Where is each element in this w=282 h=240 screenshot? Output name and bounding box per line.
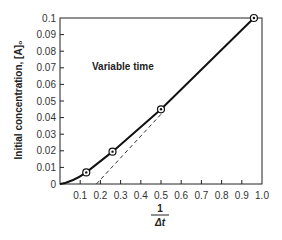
svg-text:0.5: 0.5 — [154, 190, 168, 201]
svg-text:0.8: 0.8 — [215, 190, 229, 201]
x-axis-label-denominator: Δt — [154, 217, 166, 228]
annotation-variable-time: Variable time — [92, 61, 154, 72]
svg-text:0.02: 0.02 — [37, 145, 57, 156]
svg-text:0.05: 0.05 — [37, 96, 57, 107]
svg-text:0.06: 0.06 — [37, 79, 57, 90]
svg-text:0.6: 0.6 — [174, 190, 188, 201]
svg-text:0.3: 0.3 — [114, 190, 128, 201]
svg-text:0.07: 0.07 — [37, 62, 57, 73]
y-axis-label: Initial concentration, [A]₀ — [13, 41, 24, 160]
svg-text:1.0: 1.0 — [255, 190, 269, 201]
svg-text:0.01: 0.01 — [37, 162, 57, 173]
x-axis-label-numerator: 1 — [157, 203, 163, 214]
svg-text:0.1: 0.1 — [73, 190, 87, 201]
svg-text:0.09: 0.09 — [37, 29, 57, 40]
svg-text:0.7: 0.7 — [194, 190, 208, 201]
x-axis-ticks: 0.10.20.30.40.50.60.70.80.91.0 — [73, 180, 269, 201]
svg-text:0.2: 0.2 — [93, 190, 107, 201]
svg-text:0.04: 0.04 — [37, 112, 57, 123]
svg-text:0.9: 0.9 — [235, 190, 249, 201]
svg-text:0.4: 0.4 — [134, 190, 148, 201]
svg-text:0.08: 0.08 — [37, 46, 57, 57]
series-lines — [60, 15, 257, 185]
svg-text:0: 0 — [50, 179, 56, 190]
plot-frame — [60, 18, 262, 184]
chart: 00.010.020.030.040.050.060.070.080.090.1… — [0, 0, 282, 240]
svg-text:0.03: 0.03 — [37, 129, 57, 140]
svg-text:0.1: 0.1 — [42, 13, 56, 24]
